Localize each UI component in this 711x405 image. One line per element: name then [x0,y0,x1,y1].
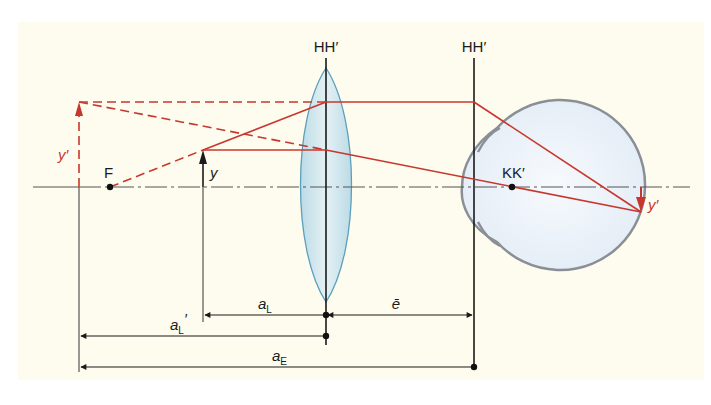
nodal-point-dot [509,184,515,190]
lens-principal-plane-label: HH′ [314,38,339,55]
dim-dot-lens-aL [323,312,329,318]
retinal-image-label: y′ [647,196,660,213]
dim-dot-lens-aLprime [323,333,329,339]
dim-dot-eye-aE [471,364,477,370]
focal-point-label: F [104,164,113,181]
eye-principal-plane-label: HH′ [462,38,487,55]
nodal-point-label: KK′ [502,164,525,181]
optics-diagram: HH′ HH′ F y y′ y′ KK′ aL aL′ ē aE [0,0,711,405]
dim-e-label: ē [392,295,400,312]
virtual-image-label: y′ [57,146,70,163]
focal-point-dot [107,184,113,190]
